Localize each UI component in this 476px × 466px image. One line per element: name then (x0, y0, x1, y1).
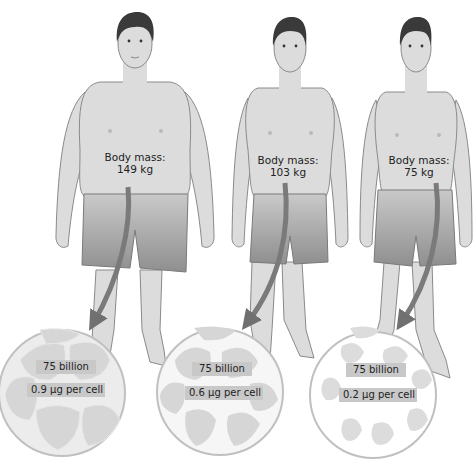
mass-label-text: Body mass: (243, 154, 333, 166)
mass-value: 75 kg (374, 166, 464, 178)
figure-obese (56, 12, 214, 366)
cell-count-tag-lean: 75 billion (346, 363, 406, 377)
cell-mass-tag-overweight: 0.6 μg per cell (185, 386, 263, 400)
mass-value: 149 kg (90, 163, 180, 175)
figure-lean (360, 17, 472, 378)
mass-value: 103 kg (243, 166, 333, 178)
cell-mass-tag-obese: 0.9 μg per cell (27, 383, 105, 397)
cell-mass-tag-lean: 0.2 μg per cell (339, 388, 417, 402)
body-mass-label-overweight: Body mass: 103 kg (243, 154, 333, 178)
body-mass-label-lean: Body mass: 75 kg (374, 154, 464, 178)
mass-label-text: Body mass: (374, 154, 464, 166)
cell-count-tag-obese: 75 billion (36, 360, 96, 374)
body-mass-label-obese: Body mass: 149 kg (90, 151, 180, 175)
mass-label-text: Body mass: (90, 151, 180, 163)
cell-count-tag-overweight: 75 billion (192, 362, 252, 376)
figure-overweight (232, 17, 348, 360)
